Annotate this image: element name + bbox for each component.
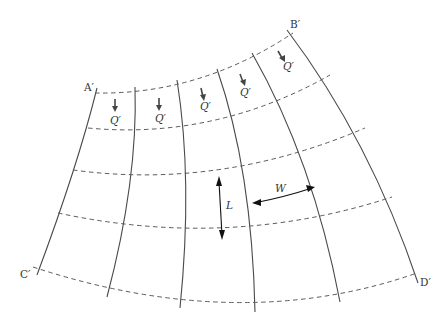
flow-label-2: Q′: [155, 112, 167, 125]
width-dimension: W: [252, 182, 315, 206]
arrow-up-icon: [216, 176, 222, 186]
corner-label-d: D′: [420, 276, 431, 288]
arrow-left-icon: [252, 199, 261, 206]
flow-arrow-4: [240, 74, 246, 86]
streamline-3: [177, 80, 186, 308]
corner-label-b: B′: [290, 18, 301, 30]
flow-net-diagram: Q′ Q′ Q′ Q′ Q′ A′ B′ C′ D′ L W: [0, 0, 447, 325]
equipotential-1: [95, 33, 293, 93]
flow-label-3: Q′: [200, 100, 212, 113]
flow-arrow-2: [156, 98, 162, 111]
equipotential-4: [58, 197, 392, 228]
flow-arrow-1: [112, 99, 118, 112]
length-dimension: L: [216, 176, 233, 240]
streamline-5: [252, 53, 340, 302]
flow-label-1: Q′: [110, 114, 122, 127]
arrow-right-icon: [306, 185, 315, 192]
streamlines: [37, 30, 418, 312]
equipotential-5: [33, 267, 417, 303]
flow-label-4: Q′: [240, 86, 252, 99]
length-label: L: [225, 199, 233, 211]
corner-label-a: A′: [83, 81, 95, 93]
streamline-1: [37, 88, 97, 275]
corner-label-c: C′: [20, 268, 31, 280]
equipotential-lines: [33, 33, 417, 303]
equipotential-3: [73, 128, 365, 175]
streamline-4: [217, 69, 255, 312]
arrow-down-icon: [219, 230, 225, 240]
width-label: W: [275, 182, 287, 194]
flow-label-5: Q′: [283, 60, 295, 73]
streamline-6: [287, 30, 418, 283]
flow-arrows: [112, 51, 285, 112]
